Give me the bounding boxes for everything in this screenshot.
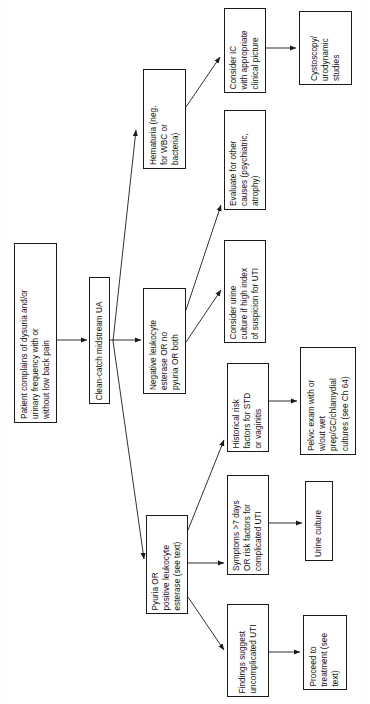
- node-label-presentation: Patient complains of dysuria and/or urin…: [19, 247, 53, 419]
- edge-negative-le-to-evaluate: [186, 205, 221, 310]
- flowchart-canvas: Patient complains of dysuria and/or urin…: [0, 0, 370, 704]
- edge-pyuria-to-historical-risk: [188, 440, 224, 530]
- node-consider-ic: Consider IC with appropriate clinical pi…: [224, 8, 266, 93]
- node-urine-culture: Urine culture: [305, 481, 333, 561]
- node-clean-catch-ua: Clean-catch midstream UA: [89, 277, 110, 404]
- edge-ua-to-pyuria: [113, 341, 144, 559]
- node-label-historical-risk-factors: Historical risk factors for STD or vagin…: [231, 367, 265, 448]
- node-label-consider-ic: Consider IC with appropriate clinical pi…: [228, 12, 262, 89]
- edge-ua-to-hematuria: [113, 130, 136, 341]
- node-label-symptoms-7-days: Symptoms >7 days OR risk factors for com…: [231, 479, 265, 571]
- edge-negative-le-to-urine-culture-consider: [186, 290, 221, 342]
- node-label-pyuria-positive-leukocyte-esterase: Pyuria OR positive leukocyte esterase (s…: [150, 519, 184, 610]
- node-label-consider-urine-culture: Consider urine culture if high index of …: [228, 244, 262, 339]
- node-symptoms-7-days: Symptoms >7 days OR risk factors for com…: [227, 475, 269, 575]
- node-hematuria: Hematuria (neg. for WBC or bacteria): [143, 69, 186, 169]
- node-proceed-to-treatment: Proceed to treatment (see text): [303, 615, 347, 690]
- scan-artifact-left: [2, 0, 3, 704]
- node-label-urine-culture: Urine culture: [313, 485, 324, 557]
- node-pyuria-positive-leukocyte-esterase: Pyuria OR positive leukocyte esterase (s…: [146, 515, 188, 614]
- node-label-clean-catch-ua: Clean-catch midstream UA: [94, 281, 105, 400]
- node-cystoscopy-urodynamic: Cystoscopy/ urodynamic studies: [299, 11, 352, 85]
- node-evaluate-other-causes: Evaluate for other causes (psychiatric, …: [224, 110, 266, 210]
- node-negative-leukocyte-esterase: Negative leukocyte esterase OR no pyuria…: [143, 288, 186, 394]
- node-label-pelvic-exam: Pelvic exam with or w/out wet prep/GC/ch…: [306, 351, 351, 451]
- node-label-hematuria: Hematuria (neg. for WBC or bacteria): [148, 73, 182, 165]
- node-consider-urine-culture: Consider urine culture if high index of …: [224, 240, 266, 343]
- edge-hematuria-to-consider-ic: [186, 57, 220, 107]
- node-label-evaluate-other-causes: Evaluate for other causes (psychiatric, …: [228, 114, 262, 206]
- node-label-findings-uncomplicated-uti: Findings suggest uncomplicated UTI: [237, 608, 259, 693]
- scan-artifact-right: [365, 0, 366, 704]
- node-label-proceed-to-treatment: Proceed to treatment (see text): [308, 619, 342, 686]
- node-label-cystoscopy-urodynamic: Cystoscopy/ urodynamic studies: [309, 15, 343, 81]
- node-label-negative-leukocyte-esterase: Negative leukocyte esterase OR no pyuria…: [148, 292, 182, 390]
- node-findings-uncomplicated-uti: Findings suggest uncomplicated UTI: [227, 604, 269, 697]
- node-pelvic-exam: Pelvic exam with or w/out wet prep/GC/ch…: [300, 347, 356, 455]
- edge-pyuria-to-findings: [188, 597, 224, 650]
- node-historical-risk-factors: Historical risk factors for STD or vagin…: [227, 363, 269, 452]
- node-presentation: Patient complains of dysuria and/or urin…: [14, 243, 57, 423]
